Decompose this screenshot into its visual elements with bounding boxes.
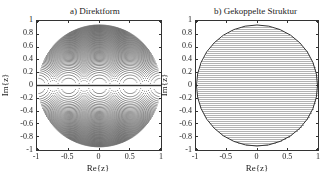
pole-scatter-b xyxy=(196,21,318,150)
y-tick-label: -0.8 xyxy=(13,133,33,141)
y-tick-label: 1 xyxy=(13,16,33,24)
x-tick-label: -0.5 xyxy=(214,153,238,161)
x-tick-label: 0.5 xyxy=(275,153,299,161)
y-axis-label-a: Im{z} xyxy=(0,65,10,105)
y-tick-label: -0.4 xyxy=(172,107,192,115)
x-tick-label: 1 xyxy=(306,153,327,161)
x-tick-label: 0.5 xyxy=(118,153,142,161)
y-tick-label: 0.4 xyxy=(172,55,192,63)
y-tick-label: -0.4 xyxy=(13,107,33,115)
y-tick-label: 0 xyxy=(172,81,192,89)
y-tick-label: 0.4 xyxy=(13,55,33,63)
y-axis-label-b: Im{z} xyxy=(159,65,169,105)
plot-area-b xyxy=(195,20,319,151)
x-tick-label: -1 xyxy=(24,153,48,161)
y-tick-label: -0.6 xyxy=(13,120,33,128)
pole-scatter-a xyxy=(37,21,161,150)
x-axis-label-b: Re{z} xyxy=(237,163,277,173)
x-tick-label: 1 xyxy=(149,153,173,161)
y-tick-label: 0.2 xyxy=(172,68,192,76)
y-tick-label: 0.8 xyxy=(13,29,33,37)
y-tick-label: -0.8 xyxy=(172,133,192,141)
y-tick-label: 0.2 xyxy=(13,68,33,76)
y-tick-label: -0.6 xyxy=(172,120,192,128)
x-tick-label: -1 xyxy=(183,153,207,161)
y-tick-label: -0.2 xyxy=(13,94,33,102)
y-tick-label: 0.6 xyxy=(13,42,33,50)
y-tick-label: 1 xyxy=(172,16,192,24)
y-tick-label: -0.2 xyxy=(172,94,192,102)
y-tick-label: 0 xyxy=(13,81,33,89)
plot-title-a: a) Direktform xyxy=(70,6,120,16)
plot-title-b: b) Gekoppelte Struktur xyxy=(214,6,297,16)
y-tick-label: 0.8 xyxy=(172,29,192,37)
plot-area-a xyxy=(36,20,162,151)
x-tick-label: 0 xyxy=(245,153,269,161)
x-tick-label: 0 xyxy=(87,153,111,161)
x-tick-label: -0.5 xyxy=(55,153,79,161)
y-tick-label: 0.6 xyxy=(172,42,192,50)
x-axis-label-a: Re{z} xyxy=(78,163,118,173)
